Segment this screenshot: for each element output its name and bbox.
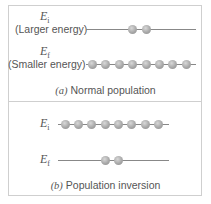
smaller-energy-label: (Smaller energy) bbox=[8, 58, 86, 70]
energy-level-symbol-ei: Ei bbox=[40, 116, 50, 132]
atom bbox=[101, 60, 110, 69]
caption-population-inversion: (b) Population inversion bbox=[0, 179, 211, 191]
upper-energy-level-line bbox=[86, 29, 196, 30]
atom bbox=[127, 120, 136, 129]
larger-energy-label: (Larger energy) bbox=[15, 23, 87, 35]
atom bbox=[141, 120, 150, 129]
panel-divider bbox=[8, 101, 202, 102]
atom bbox=[182, 60, 191, 69]
atom bbox=[142, 25, 151, 34]
atom bbox=[154, 120, 163, 129]
atom bbox=[142, 60, 151, 69]
atom bbox=[168, 60, 177, 69]
atom bbox=[87, 120, 96, 129]
atom bbox=[101, 156, 110, 165]
atom bbox=[61, 120, 70, 129]
atom bbox=[128, 25, 137, 34]
atom bbox=[128, 60, 137, 69]
caption-normal-population: (a) Normal population bbox=[0, 84, 211, 96]
atom bbox=[155, 60, 164, 69]
energy-level-symbol-ef: Ef bbox=[40, 152, 50, 168]
atom bbox=[114, 156, 123, 165]
atom bbox=[101, 120, 110, 129]
atom bbox=[115, 60, 124, 69]
atom bbox=[74, 120, 83, 129]
atom bbox=[114, 120, 123, 129]
atom bbox=[88, 60, 97, 69]
